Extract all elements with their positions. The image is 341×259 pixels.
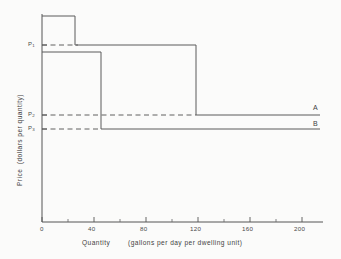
y-tick-label-p1: P1 [28,41,35,48]
x-axis-title-units: (gallons per day per dwelling unit) [128,239,242,246]
y-axis-title-units: (dollars per quantity) [16,94,23,164]
figure-canvas: 0 40 80 120 160 200 Quantity (gallons pe… [0,0,341,259]
x-axis-title-main: Quantity [82,239,110,246]
curve-label-a: A [313,104,318,111]
y-tick-label-p2-sub: 2 [32,113,34,118]
x-tick-label-0: 0 [40,225,44,232]
y-tick-label-p1-sub: 1 [32,43,34,48]
x-tick-label-160: 160 [242,225,253,232]
y-axis-title: Price (dollars per quantity) [16,94,23,186]
chart-plot [0,0,341,259]
curve-series-b [42,52,320,129]
y-axis-ticks [42,45,47,129]
y-axis-title-main: Price [16,169,23,186]
curve-label-b: B [313,120,318,127]
x-tick-label-120: 120 [190,225,201,232]
curve-series-a [42,16,320,115]
x-tick-label-40: 40 [88,225,95,232]
y-tick-label-p2: P2 [28,111,35,118]
y-tick-label-p3: P3 [28,125,35,132]
x-tick-label-80: 80 [140,225,147,232]
x-tick-label-200: 200 [294,225,305,232]
y-tick-label-p3-sub: 3 [32,127,34,132]
